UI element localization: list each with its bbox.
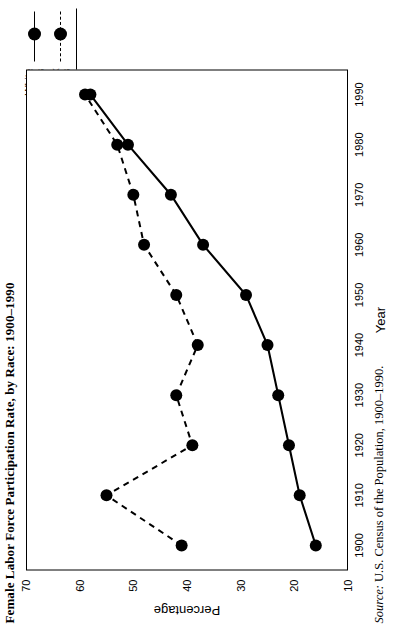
source-text: U.S. Census of the Population, 1900–1990… bbox=[372, 365, 386, 584]
data-point bbox=[192, 339, 204, 351]
x-axis-title: Year bbox=[373, 306, 388, 332]
data-point bbox=[283, 439, 295, 451]
x-tick-label: 1950 bbox=[353, 282, 365, 306]
legend-key-white-females bbox=[24, 11, 46, 61]
figure-source: Source: U.S. Census of the Population, 1… bbox=[372, 365, 387, 623]
data-point bbox=[294, 489, 306, 501]
legend-key-black-females bbox=[50, 11, 72, 61]
data-point bbox=[138, 238, 150, 250]
x-tick-label: 1990 bbox=[353, 82, 365, 106]
x-tick-label: 1980 bbox=[353, 132, 365, 156]
x-tick-label: 1910 bbox=[353, 483, 365, 507]
figure-title: Female Labor Force Participation Rate, b… bbox=[2, 5, 18, 623]
x-tick-label: 1920 bbox=[353, 433, 365, 457]
data-point bbox=[186, 439, 198, 451]
data-point bbox=[310, 539, 322, 551]
data-point bbox=[127, 188, 139, 200]
data-point bbox=[262, 339, 274, 351]
data-point bbox=[272, 389, 284, 401]
y-tick-label: 10 bbox=[342, 579, 354, 591]
x-tick-label: 1900 bbox=[353, 533, 365, 557]
series-layer bbox=[26, 69, 348, 570]
y-tick-label: 30 bbox=[235, 579, 247, 591]
x-tick-label: 1940 bbox=[353, 332, 365, 356]
y-tick-label: 70 bbox=[20, 579, 32, 591]
x-tick-label: 1960 bbox=[353, 232, 365, 256]
y-tick-label: 40 bbox=[181, 579, 193, 591]
y-tick-label: 60 bbox=[74, 579, 86, 591]
x-tick-label: 1970 bbox=[353, 182, 365, 206]
source-word: Source: bbox=[372, 585, 386, 623]
y-tick-label: 20 bbox=[288, 579, 300, 591]
legend-marker-circle bbox=[54, 27, 67, 40]
plot-area: 1900191019201930194019501960197019801990… bbox=[26, 69, 348, 570]
y-tick-label: 50 bbox=[127, 579, 139, 591]
figure-container: Female Labor Force Participation Rate, b… bbox=[0, 0, 400, 629]
series-line-white-females bbox=[90, 94, 315, 545]
data-point bbox=[101, 489, 113, 501]
legend-marker-circle bbox=[28, 27, 41, 40]
y-axis-title: Percentage bbox=[154, 603, 221, 618]
data-point bbox=[176, 539, 188, 551]
data-point bbox=[170, 389, 182, 401]
x-tick-label: 1930 bbox=[353, 382, 365, 406]
